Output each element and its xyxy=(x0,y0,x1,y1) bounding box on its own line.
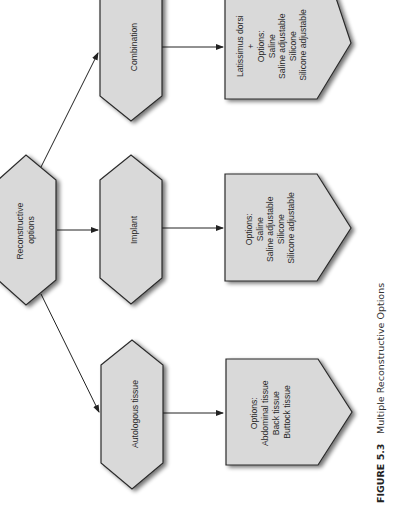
combination-option-line-4: Saline xyxy=(267,34,277,58)
combination-option-line-1: Latissimus dorsi xyxy=(235,15,245,77)
edge-root-autologous xyxy=(41,294,99,412)
combination-label: Combination xyxy=(129,23,139,71)
implant-label: Implant xyxy=(129,215,139,244)
node-implant: Implant xyxy=(100,155,162,304)
autologous-label: Autologous tissue xyxy=(130,380,140,448)
figure-caption: FIGURE 5.3 Multiple Reconstructive Optio… xyxy=(370,283,387,503)
root-label-line-1: Reconstructive xyxy=(15,203,25,260)
autologous-option-line-4: Buttock tissue xyxy=(282,385,292,439)
autologous-option-line-2: Abdominal tissue xyxy=(260,380,270,446)
root-label-line-2: options xyxy=(26,216,36,244)
implant-option-line-2: Saline xyxy=(255,217,265,241)
flowchart: Reconstructive options Combination Impla… xyxy=(0,0,402,517)
svg-text:FIGURE 5.3 Multiple Reco: FIGURE 5.3 Multiple Reconstructive Optio… xyxy=(370,283,387,503)
implant-option-line-4: Silicone xyxy=(276,214,286,244)
implant-option-line-3: Saline adjustable xyxy=(265,196,275,262)
autologous-option-line-3: Back tissue xyxy=(271,391,281,435)
edge-root-combination xyxy=(41,53,98,167)
implant-option-line-1: Options: xyxy=(244,213,254,245)
combination-option-line-7: Silicone adjustable xyxy=(298,9,308,81)
node-root: Reconstructive options xyxy=(0,155,56,305)
node-implant-options: Options: Saline Saline adjustable Silico… xyxy=(225,174,351,281)
node-autologous: Autologous tissue xyxy=(101,340,163,489)
node-combination-options: Latissimus dorsi + Options: Saline Salin… xyxy=(225,0,351,99)
combination-option-line-6: Silicone xyxy=(288,31,298,61)
combination-option-line-5: Saline adjustable xyxy=(277,13,287,79)
figure-title: Multiple Reconstructive Options xyxy=(375,283,386,434)
combination-option-line-2: + xyxy=(246,44,256,49)
implant-option-line-5: Silicone adjustable xyxy=(286,192,296,264)
autologous-option-line-1: Options: xyxy=(249,397,259,429)
node-combination: Combination xyxy=(100,0,162,121)
combination-option-line-3: Options: xyxy=(256,30,266,62)
node-autologous-options: Options: Abdominal tissue Back tissue Bu… xyxy=(226,359,352,465)
figure-number: FIGURE 5.3 xyxy=(375,444,386,503)
